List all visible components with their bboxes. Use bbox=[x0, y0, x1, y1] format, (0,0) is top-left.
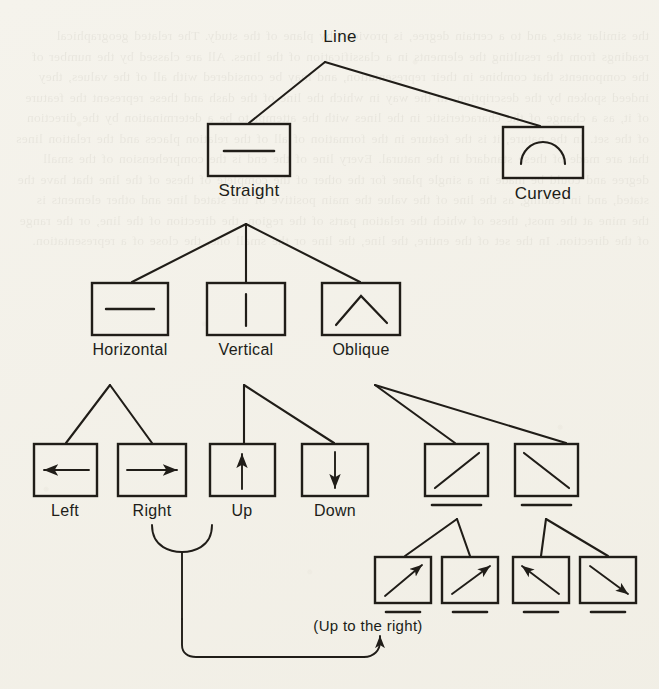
node-up-left-a[interactable] bbox=[513, 557, 569, 612]
glyph-diagonal-up-right bbox=[435, 453, 479, 488]
node-horizontal[interactable] bbox=[92, 283, 168, 335]
node-oblique-up[interactable] bbox=[425, 444, 488, 505]
node-label-oblique: Oblique bbox=[332, 341, 389, 359]
glyph-arc-semicircle bbox=[521, 142, 565, 164]
node-left[interactable] bbox=[34, 444, 97, 496]
node-up-right-a[interactable] bbox=[375, 557, 431, 612]
node-label-up: Up bbox=[231, 502, 252, 520]
glyph-arrow-diagonal-up-right bbox=[385, 565, 422, 596]
node-vertical[interactable] bbox=[207, 283, 285, 335]
node-label-horizontal: Horizontal bbox=[92, 341, 167, 359]
connector-vertical-to-up-down bbox=[244, 385, 334, 443]
connector-line-to-straight-curved bbox=[249, 62, 540, 126]
node-up-right-b[interactable] bbox=[442, 557, 498, 612]
node-label-line: Line bbox=[323, 27, 356, 47]
annotation-brace-to-up-to-the-right bbox=[152, 525, 380, 657]
node-oblique[interactable] bbox=[322, 283, 400, 335]
glyph-arrow-diagonal-down-right bbox=[590, 566, 628, 594]
node-label-left: Left bbox=[51, 502, 79, 520]
scanned-figure-page: the similar state, and to a certain degr… bbox=[0, 0, 659, 689]
node-label-straight: Straight bbox=[219, 181, 280, 201]
node-label-down: Down bbox=[314, 502, 356, 520]
node-curved[interactable] bbox=[503, 127, 583, 178]
connector-straight-to-level2 bbox=[132, 224, 360, 282]
glyph-diagonal-down-right bbox=[524, 453, 569, 488]
node-down[interactable] bbox=[302, 444, 368, 496]
node-label-vertical: Vertical bbox=[219, 341, 274, 359]
annotation-up-to-the-right: (Up to the right) bbox=[313, 617, 422, 634]
node-oblique-down[interactable] bbox=[515, 444, 578, 505]
connector-oblique-down-to-subvariants bbox=[541, 519, 608, 556]
glyph-arrow-diagonal-up-right bbox=[452, 566, 490, 594]
node-down-right-a[interactable] bbox=[580, 557, 636, 612]
node-right[interactable] bbox=[118, 444, 186, 496]
node-straight[interactable] bbox=[208, 124, 290, 176]
connector-oblique-up-to-subvariants bbox=[405, 519, 470, 556]
glyph-arrow-diagonal-up-left bbox=[522, 566, 559, 594]
connector-horizontal-to-left-right bbox=[66, 385, 152, 443]
node-up[interactable] bbox=[210, 444, 275, 496]
glyph-inverted-v bbox=[336, 296, 387, 325]
node-label-curved: Curved bbox=[515, 184, 572, 204]
connector-oblique-to-variants bbox=[375, 385, 566, 443]
node-label-right: Right bbox=[133, 502, 172, 520]
